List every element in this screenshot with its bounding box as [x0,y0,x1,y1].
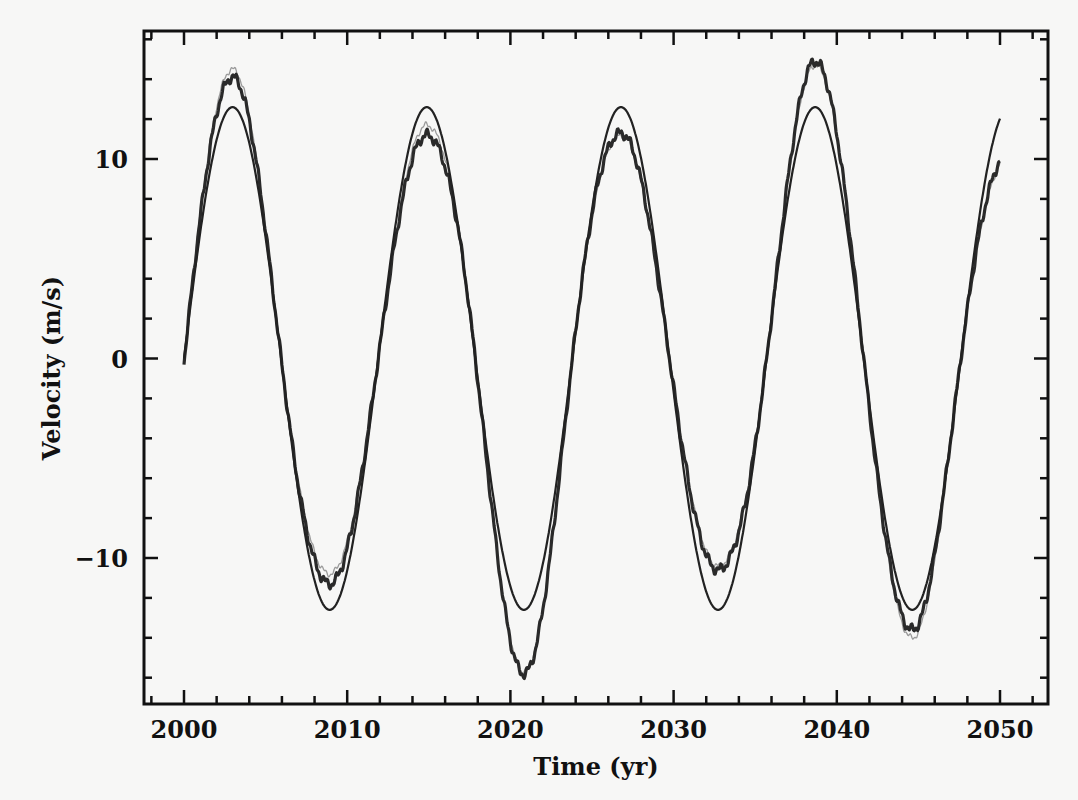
plot-lines [184,59,1000,678]
series-line [184,59,1000,678]
x-tick-labels: 200020102020203020402050 [151,715,1034,744]
y-tick-labels: −10010 [74,145,128,573]
x-tick-label: 2040 [803,715,870,744]
x-axis-title: Time (yr) [533,752,658,781]
x-tick-label: 2050 [967,715,1034,744]
y-tick-label: −10 [74,544,128,573]
plot-frame [144,31,1048,704]
series-line [184,65,1000,674]
x-tick-label: 2010 [314,715,381,744]
y-axis-title: Velocity (m/s) [37,276,66,461]
x-tick-label: 2020 [477,715,544,744]
x-tick-label: 2000 [151,715,218,744]
y-tick-label: 10 [95,145,128,174]
velocity-chart: 200020102020203020402050 −10010 Time (yr… [0,0,1078,800]
x-tick-label: 2030 [640,715,707,744]
y-tick-label: 0 [111,345,128,374]
axis-ticks [144,31,1048,704]
